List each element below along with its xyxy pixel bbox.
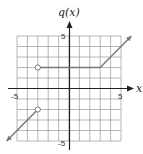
y-max-tick-label: 5 <box>61 32 66 41</box>
y-axis-arrow-icon <box>67 21 73 28</box>
right-piece <box>100 36 131 68</box>
x-max-tick-label: 5 <box>118 92 123 101</box>
piecewise-graph: q(x) x -5 5 5 -5 <box>0 0 143 154</box>
left-piece <box>7 110 38 142</box>
y-axis-label: q(x) <box>58 6 80 19</box>
open-circle-marker <box>35 107 40 112</box>
y-min-tick-label: -5 <box>58 139 66 148</box>
x-axis-arrow-icon <box>127 86 134 92</box>
x-axis-label: x <box>136 82 143 95</box>
open-circle-marker <box>35 65 40 70</box>
x-min-tick-label: -5 <box>11 92 19 101</box>
